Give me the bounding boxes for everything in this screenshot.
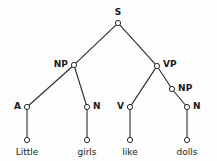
terminal-word-word3: like	[122, 148, 137, 157]
tree-edge	[76, 25, 116, 63]
tree-edge	[120, 25, 156, 64]
tree-node-a[interactable]	[24, 104, 29, 109]
node-label-vp: VP	[163, 60, 177, 69]
node-label-a: A	[14, 102, 21, 111]
node-label-n1: N	[93, 102, 101, 111]
terminal-word-word1: Little	[16, 148, 39, 157]
node-label-v: V	[117, 102, 124, 111]
tree-node-v[interactable]	[127, 104, 132, 109]
tree-edge	[158, 68, 170, 87]
tree-node-leaf3[interactable]	[127, 137, 132, 142]
tree-node-s[interactable]	[115, 20, 120, 25]
edge-group	[27, 25, 187, 138]
tree-node-n2[interactable]	[184, 104, 189, 109]
terminal-word-word2: girls	[77, 148, 96, 157]
tree-edge	[75, 67, 86, 104]
tree-node-n1[interactable]	[84, 104, 89, 109]
node-label-s: S	[115, 8, 122, 17]
tree-edge	[174, 91, 186, 105]
node-label-np2: NP	[178, 84, 192, 93]
tree-edge	[29, 67, 72, 106]
tree-node-leaf2[interactable]	[84, 137, 89, 142]
tree-node-np2[interactable]	[169, 86, 174, 91]
tree-node-vp[interactable]	[154, 63, 159, 68]
tree-node-leaf1[interactable]	[24, 137, 29, 142]
tree-node-np1[interactable]	[71, 62, 76, 67]
node-group	[24, 20, 189, 142]
node-label-n2: N	[193, 102, 201, 111]
tree-node-leaf4[interactable]	[184, 137, 189, 142]
tree-edges-and-nodes	[0, 0, 217, 161]
terminal-word-word4: dolls	[177, 148, 198, 157]
tree-edge	[131, 68, 155, 105]
node-label-np1: NP	[54, 60, 68, 69]
syntax-tree-diagram: SNPVPNPANVN Littlegirlslikedolls	[0, 0, 217, 161]
